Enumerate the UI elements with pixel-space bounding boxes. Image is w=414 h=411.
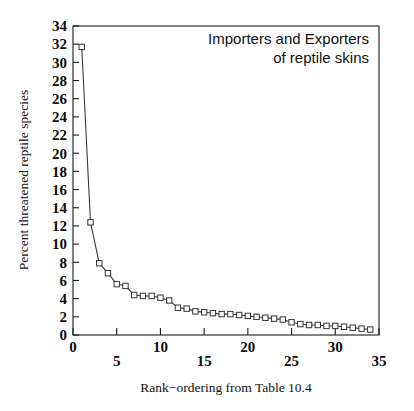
data-point-marker: [105, 271, 110, 276]
data-point-marker: [368, 327, 373, 332]
data-point-marker: [184, 306, 189, 311]
data-point-marker: [236, 312, 241, 317]
x-tick-label-10: 10: [153, 339, 168, 355]
data-point-marker: [280, 317, 285, 322]
y-tick-label-16: 16: [52, 182, 68, 198]
data-point-marker: [158, 295, 163, 300]
y-tick-label-8: 8: [60, 255, 68, 271]
annotation-line-2: of reptile skins: [273, 49, 369, 66]
x-tick-label-30: 30: [328, 339, 343, 355]
y-tick-label-20: 20: [52, 146, 67, 162]
data-point-marker: [175, 305, 180, 310]
x-tick-label-25: 25: [284, 353, 299, 369]
data-point-marker: [298, 321, 303, 326]
y-tick-label-22: 22: [52, 127, 67, 143]
y-tick-label-6: 6: [60, 273, 68, 289]
plot-frame: [73, 26, 379, 335]
y-tick-label-0: 0: [60, 327, 68, 343]
x-axis-tick-labels: 05101520253035: [69, 339, 386, 369]
data-point-marker: [341, 324, 346, 329]
y-tick-label-10: 10: [52, 236, 67, 252]
data-point-marker: [359, 326, 364, 331]
x-axis-label: Rank−ordering from Table 10.4: [140, 380, 312, 395]
data-point-marker: [263, 315, 268, 320]
data-point-marker: [114, 281, 119, 286]
data-point-marker: [306, 322, 311, 327]
y-tick-label-18: 18: [52, 164, 67, 180]
x-tick-label-5: 5: [113, 353, 121, 369]
y-tick-label-26: 26: [52, 91, 68, 107]
data-point-marker: [132, 292, 137, 297]
data-point-marker: [210, 310, 215, 315]
data-point-marker: [140, 293, 145, 298]
data-point-marker: [201, 310, 206, 315]
data-point-marker: [324, 323, 329, 328]
data-point-marker: [88, 220, 93, 225]
data-point-marker: [289, 320, 294, 325]
data-point-marker: [219, 311, 224, 316]
y-tick-label-12: 12: [52, 218, 67, 234]
chart-page: 0246810121416182022242628303234 05101520…: [0, 0, 414, 411]
data-point-marker: [245, 313, 250, 318]
y-tick-label-34: 34: [52, 18, 68, 34]
data-point-marker: [166, 298, 171, 303]
y-tick-label-30: 30: [52, 55, 67, 71]
data-point-marker: [123, 283, 128, 288]
y-tick-label-32: 32: [52, 36, 67, 52]
data-point-marker: [254, 314, 259, 319]
data-point-marker: [79, 44, 84, 49]
x-tick-label-20: 20: [240, 339, 255, 355]
y-tick-label-28: 28: [52, 73, 67, 89]
x-tick-label-0: 0: [69, 339, 77, 355]
data-point-marker: [315, 322, 320, 327]
data-point-marker: [193, 309, 198, 314]
data-point-marker: [350, 325, 355, 330]
data-point-marker: [271, 316, 276, 321]
y-tick-label-24: 24: [52, 109, 68, 125]
y-tick-label-4: 4: [60, 291, 68, 307]
y-axis-tick-labels: 0246810121416182022242628303234: [52, 18, 68, 343]
data-point-marker: [149, 293, 154, 298]
data-point-marker: [97, 261, 102, 266]
data-point-marker: [333, 323, 338, 328]
annotation-line-1: Importers and Exporters: [208, 30, 369, 47]
y-axis-label: Percent threatened reptile species: [16, 90, 31, 270]
x-tick-label-35: 35: [372, 353, 387, 369]
y-tick-label-2: 2: [60, 309, 68, 325]
y-tick-label-14: 14: [52, 200, 68, 216]
data-point-marker: [228, 311, 233, 316]
reptile-skins-line-chart: 0246810121416182022242628303234 05101520…: [0, 0, 414, 411]
x-tick-label-15: 15: [197, 353, 212, 369]
